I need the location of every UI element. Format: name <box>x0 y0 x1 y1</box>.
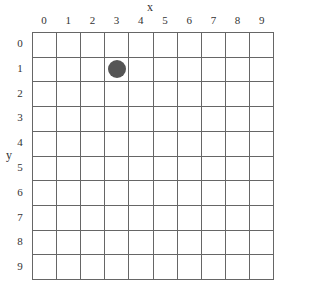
grid-cell-5-5[interactable] <box>154 157 178 182</box>
grid-cell-2-2[interactable] <box>81 82 105 107</box>
grid-cell-2-8[interactable] <box>81 231 105 256</box>
grid-cell-9-4[interactable] <box>250 132 274 157</box>
grid-cell-6-6[interactable] <box>178 181 202 206</box>
grid-cell-0-5[interactable] <box>33 157 57 182</box>
grid-cell-5-1[interactable] <box>154 58 178 83</box>
grid-cell-5-4[interactable] <box>154 132 178 157</box>
grid-cell-6-5[interactable] <box>178 157 202 182</box>
grid-cell-7-8[interactable] <box>202 231 226 256</box>
grid-cell-4-0[interactable] <box>129 33 153 58</box>
grid-cell-6-0[interactable] <box>178 33 202 58</box>
grid-cell-2-1[interactable] <box>81 58 105 83</box>
grid-cell-8-2[interactable] <box>226 82 250 107</box>
grid-cell-5-7[interactable] <box>154 206 178 231</box>
grid-cell-7-6[interactable] <box>202 181 226 206</box>
grid-cell-7-4[interactable] <box>202 132 226 157</box>
grid-cell-3-3[interactable] <box>105 107 129 132</box>
grid-cell-1-3[interactable] <box>57 107 81 132</box>
grid-cell-1-4[interactable] <box>57 132 81 157</box>
grid-cell-1-9[interactable] <box>57 255 81 280</box>
grid-cell-0-3[interactable] <box>33 107 57 132</box>
grid-cell-3-0[interactable] <box>105 33 129 58</box>
grid-cell-9-0[interactable] <box>250 33 274 58</box>
grid-cell-0-4[interactable] <box>33 132 57 157</box>
grid-cell-4-6[interactable] <box>129 181 153 206</box>
grid-cell-3-7[interactable] <box>105 206 129 231</box>
grid-cell-4-7[interactable] <box>129 206 153 231</box>
grid-cell-1-7[interactable] <box>57 206 81 231</box>
grid-cell-9-8[interactable] <box>250 231 274 256</box>
grid-cell-8-3[interactable] <box>226 107 250 132</box>
grid-cell-0-6[interactable] <box>33 181 57 206</box>
grid-cell-7-2[interactable] <box>202 82 226 107</box>
grid-cell-7-0[interactable] <box>202 33 226 58</box>
grid-cell-6-2[interactable] <box>178 82 202 107</box>
grid-cell-0-9[interactable] <box>33 255 57 280</box>
grid-cell-0-0[interactable] <box>33 33 57 58</box>
grid-cell-9-5[interactable] <box>250 157 274 182</box>
grid-cell-2-0[interactable] <box>81 33 105 58</box>
grid-cell-2-6[interactable] <box>81 181 105 206</box>
grid-cell-2-9[interactable] <box>81 255 105 280</box>
grid-cell-1-2[interactable] <box>57 82 81 107</box>
grid-cell-3-8[interactable] <box>105 231 129 256</box>
grid-cell-8-4[interactable] <box>226 132 250 157</box>
grid-cell-8-6[interactable] <box>226 181 250 206</box>
grid-cell-7-1[interactable] <box>202 58 226 83</box>
grid-cell-7-9[interactable] <box>202 255 226 280</box>
grid-cell-0-8[interactable] <box>33 231 57 256</box>
grid-cell-8-7[interactable] <box>226 206 250 231</box>
grid-cell-3-6[interactable] <box>105 181 129 206</box>
grid-cell-4-4[interactable] <box>129 132 153 157</box>
grid-cell-8-9[interactable] <box>226 255 250 280</box>
grid-cell-1-1[interactable] <box>57 58 81 83</box>
grid-cell-0-1[interactable] <box>33 58 57 83</box>
grid-cell-6-4[interactable] <box>178 132 202 157</box>
grid-cell-8-8[interactable] <box>226 231 250 256</box>
grid-cell-1-5[interactable] <box>57 157 81 182</box>
grid-cell-5-3[interactable] <box>154 107 178 132</box>
grid-cell-9-1[interactable] <box>250 58 274 83</box>
grid-cell-6-8[interactable] <box>178 231 202 256</box>
grid-cell-5-0[interactable] <box>154 33 178 58</box>
grid-cell-8-5[interactable] <box>226 157 250 182</box>
grid-cell-6-7[interactable] <box>178 206 202 231</box>
grid-cell-3-9[interactable] <box>105 255 129 280</box>
grid-cell-6-3[interactable] <box>178 107 202 132</box>
grid-cell-9-6[interactable] <box>250 181 274 206</box>
grid-cell-1-8[interactable] <box>57 231 81 256</box>
grid-cell-4-5[interactable] <box>129 157 153 182</box>
grid-cell-7-3[interactable] <box>202 107 226 132</box>
grid-cell-6-1[interactable] <box>178 58 202 83</box>
grid-cell-5-9[interactable] <box>154 255 178 280</box>
grid-cell-1-6[interactable] <box>57 181 81 206</box>
grid-cell-9-3[interactable] <box>250 107 274 132</box>
grid-cell-2-4[interactable] <box>81 132 105 157</box>
grid-cell-9-2[interactable] <box>250 82 274 107</box>
grid-cell-5-6[interactable] <box>154 181 178 206</box>
grid-cell-4-1[interactable] <box>129 58 153 83</box>
grid-cell-4-3[interactable] <box>129 107 153 132</box>
grid-cell-6-9[interactable] <box>178 255 202 280</box>
grid-cell-5-2[interactable] <box>154 82 178 107</box>
grid-cell-3-2[interactable] <box>105 82 129 107</box>
grid-cell-3-5[interactable] <box>105 157 129 182</box>
grid-cell-4-2[interactable] <box>129 82 153 107</box>
grid-cell-9-7[interactable] <box>250 206 274 231</box>
grid-cell-2-5[interactable] <box>81 157 105 182</box>
grid-cell-3-4[interactable] <box>105 132 129 157</box>
grid-cell-2-7[interactable] <box>81 206 105 231</box>
grid-cell-7-7[interactable] <box>202 206 226 231</box>
grid-cell-4-8[interactable] <box>129 231 153 256</box>
grid-cell-1-0[interactable] <box>57 33 81 58</box>
grid-cell-5-8[interactable] <box>154 231 178 256</box>
grid-cell-8-1[interactable] <box>226 58 250 83</box>
grid-cell-7-5[interactable] <box>202 157 226 182</box>
grid-cell-0-7[interactable] <box>33 206 57 231</box>
grid-cell-9-9[interactable] <box>250 255 274 280</box>
circle-marker-icon[interactable] <box>108 60 126 78</box>
grid-cell-0-2[interactable] <box>33 82 57 107</box>
grid-cell-4-9[interactable] <box>129 255 153 280</box>
grid-cell-2-3[interactable] <box>81 107 105 132</box>
grid-cell-8-0[interactable] <box>226 33 250 58</box>
